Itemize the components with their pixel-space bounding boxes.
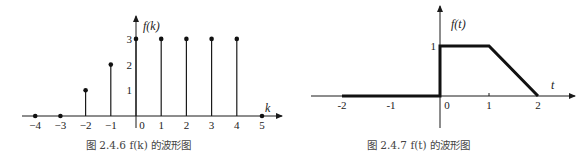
- stem-point: [109, 62, 114, 67]
- ft-tick-label: 1: [431, 40, 437, 52]
- k-tick-label: 1: [158, 119, 164, 131]
- fk-tick-label: 3: [127, 33, 133, 45]
- k-tick-label: 4: [234, 119, 240, 131]
- k-tick-labels: −4−3−2−1012345: [29, 119, 265, 131]
- caption-left: 图 2.4.6 f(k) 的波形图: [86, 139, 191, 151]
- k-tick-label: 0: [139, 119, 145, 131]
- k-tick-label: 2: [184, 119, 190, 131]
- stem-point: [58, 114, 63, 119]
- stem-point: [235, 37, 240, 42]
- stem-point: [184, 37, 189, 42]
- stem-point: [33, 114, 38, 119]
- fk-ylabel: f(k): [143, 19, 160, 33]
- k-tick-label: −4: [29, 119, 41, 131]
- k-xlabel: k: [265, 101, 271, 115]
- ft-tick-labels: 1: [431, 40, 437, 52]
- stems: [33, 37, 264, 119]
- t-tick-label: 1: [486, 99, 492, 111]
- k-tick-label: 3: [209, 119, 215, 131]
- stem-point: [209, 37, 214, 42]
- line-chart-ft: -2-1012 1 f(t) t 图 2.4.7 f(t) 的波形图: [311, 6, 575, 151]
- fk-tick-label: 1: [127, 84, 133, 96]
- t-tick-label: -2: [337, 99, 346, 111]
- ft-ylabel: f(t): [451, 17, 466, 31]
- stem-point: [83, 88, 88, 93]
- ft-waveform: [342, 46, 538, 96]
- k-tick-label: −2: [80, 119, 92, 131]
- caption-right: 图 2.4.7 f(t) 的波形图: [367, 139, 470, 151]
- t-xlabel: t: [551, 78, 555, 92]
- fk-tick-labels: 123: [127, 33, 133, 96]
- stem-point: [134, 37, 139, 42]
- t-tick-label: 2: [535, 99, 541, 111]
- k-tick-label: 5: [259, 119, 265, 131]
- t-tick-label: 0: [444, 99, 450, 111]
- figure-canvas: −4−3−2−1012345 123 f(k) k 图 2.4.6 f(k) 的…: [0, 0, 587, 161]
- stem-point: [159, 37, 164, 42]
- t-tick-label: -1: [386, 99, 395, 111]
- fk-tick-label: 2: [127, 59, 133, 71]
- stem-chart-fk: −4−3−2−1012345 123 f(k) k 图 2.4.6 f(k) 的…: [22, 16, 282, 151]
- k-tick-label: −1: [105, 119, 117, 131]
- k-tick-label: −3: [55, 119, 67, 131]
- stem-point: [260, 114, 265, 119]
